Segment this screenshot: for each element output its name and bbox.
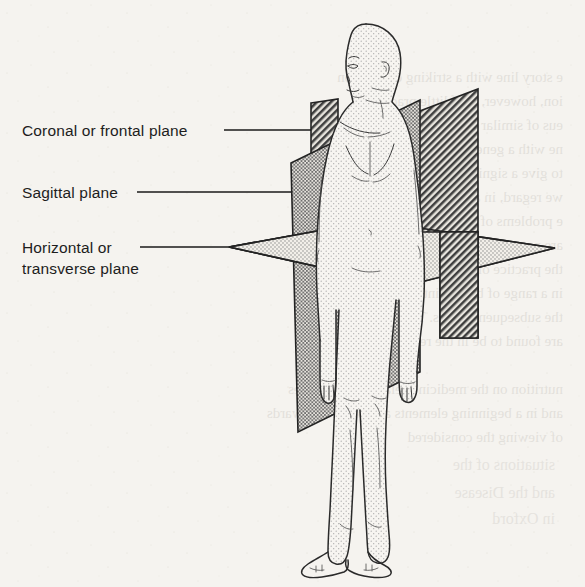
diagram-canvas: e story line with a striking conclusion … — [0, 0, 585, 587]
label-horizontal-plane-line1: Horizontal or — [22, 239, 112, 256]
svg-text:of viewing the considered: of viewing the considered — [407, 429, 563, 445]
label-sagittal-plane: Sagittal plane — [22, 184, 118, 201]
svg-text:in Oxford: in Oxford — [492, 510, 555, 527]
coronal-plane-front-band — [440, 232, 478, 338]
anatomical-planes-figure: e story line with a striking conclusion … — [0, 0, 585, 587]
svg-text:situations of the: situations of the — [453, 456, 555, 473]
label-horizontal-plane-line2: transverse plane — [22, 260, 139, 277]
label-coronal-plane: Coronal or frontal plane — [22, 122, 188, 139]
svg-text:and the Disease: and the Disease — [455, 484, 555, 501]
